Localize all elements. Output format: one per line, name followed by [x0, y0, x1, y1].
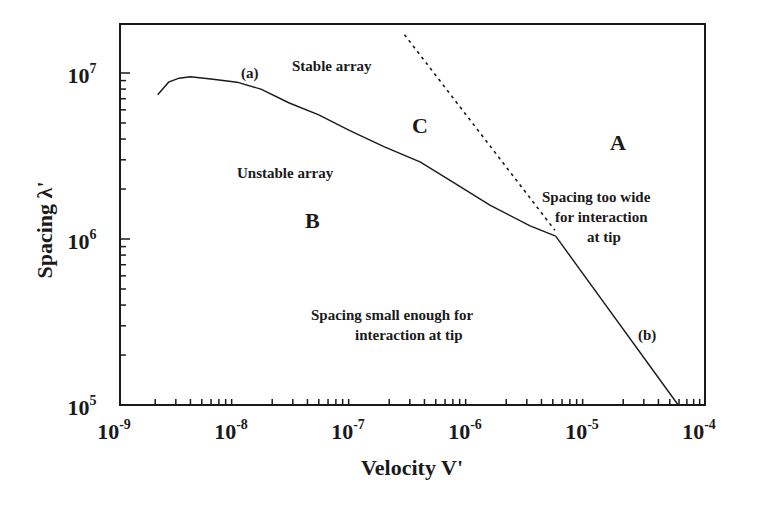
- y-tick-label: 106: [68, 227, 97, 254]
- small-enough-line1: Spacing small enough for: [311, 307, 473, 323]
- y-tick-label: 107: [68, 61, 97, 88]
- axis-tick-labels: 10-910-810-710-610-510-4105106107: [68, 61, 716, 444]
- phase-diagram-chart: 10-910-810-710-610-510-4105106107 (a) (b…: [0, 0, 759, 509]
- region-c-label: C: [412, 113, 428, 138]
- y-tick-label: 105: [68, 393, 97, 420]
- x-tick-label: 10-5: [565, 417, 599, 444]
- too-wide-line3: at tip: [587, 229, 621, 245]
- too-wide-line2: for interaction: [555, 209, 648, 225]
- x-axis-title: Velocity V': [361, 455, 463, 480]
- x-tick-label: 10-9: [97, 417, 131, 444]
- curve-b-label: (b): [638, 327, 656, 344]
- x-tick-label: 10-8: [214, 417, 248, 444]
- y-axis-title: Spacing λ': [32, 181, 57, 278]
- curve-line: [158, 77, 556, 237]
- x-tick-label: 10-7: [331, 417, 365, 444]
- unstable-array-label: Unstable array: [237, 165, 334, 181]
- too-wide-line1: Spacing too wide: [542, 189, 651, 205]
- curve-a-label: (a): [241, 65, 259, 82]
- x-tick-label: 10-4: [682, 417, 716, 444]
- curve-line: [556, 236, 679, 405]
- x-tick-label: 10-6: [448, 417, 482, 444]
- small-enough-line2: interaction at tip: [355, 327, 462, 343]
- stable-array-label: Stable array: [292, 58, 372, 74]
- region-a-label: A: [610, 130, 626, 155]
- region-b-label: B: [305, 208, 320, 233]
